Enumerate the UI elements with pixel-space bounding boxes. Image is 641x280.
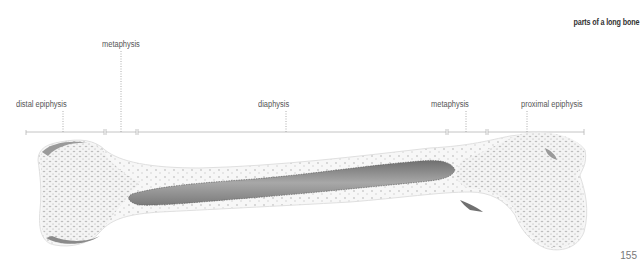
long-bone-diagram bbox=[0, 0, 641, 280]
page-number: 155 bbox=[620, 250, 637, 261]
leader-lines bbox=[63, 51, 527, 132]
bracket-lines bbox=[26, 129, 584, 135]
bone-illustration bbox=[38, 133, 587, 250]
